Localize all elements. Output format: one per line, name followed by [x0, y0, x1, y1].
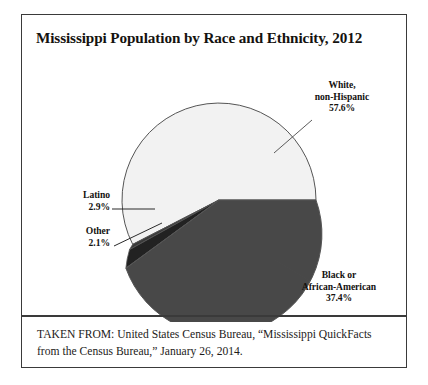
figure-caption: TAKEN FROM: United States Census Bureau,… — [37, 327, 389, 361]
slice-label-black: Black or African-American 37.4% — [280, 269, 398, 304]
slice-label-other-value: 2.1% — [34, 237, 110, 249]
page-title: Mississippi Population by Race and Ethni… — [36, 29, 396, 47]
slice-label-white-line2: non-Hispanic — [290, 91, 394, 103]
slice-label-white-value: 57.6% — [290, 102, 394, 114]
slice-label-other: Other 2.1% — [34, 225, 110, 248]
slice-label-black-line2: African-American — [280, 281, 398, 293]
slice-label-black-value: 37.4% — [280, 292, 398, 304]
slice-label-latino-line1: Latino — [34, 189, 110, 201]
slice-label-other-line1: Other — [34, 225, 110, 237]
slice-label-latino-value: 2.9% — [34, 201, 110, 213]
slice-label-white: White, non-Hispanic 57.6% — [290, 79, 394, 114]
pie-chart: White, non-Hispanic 57.6% Black or Afric… — [22, 57, 405, 322]
caption-divider — [22, 315, 406, 317]
slice-label-white-line1: White, — [290, 79, 394, 91]
figure-frame: Mississippi Population by Race and Ethni… — [21, 14, 407, 368]
slice-label-black-line1: Black or — [280, 269, 398, 281]
slice-label-latino: Latino 2.9% — [34, 189, 110, 212]
